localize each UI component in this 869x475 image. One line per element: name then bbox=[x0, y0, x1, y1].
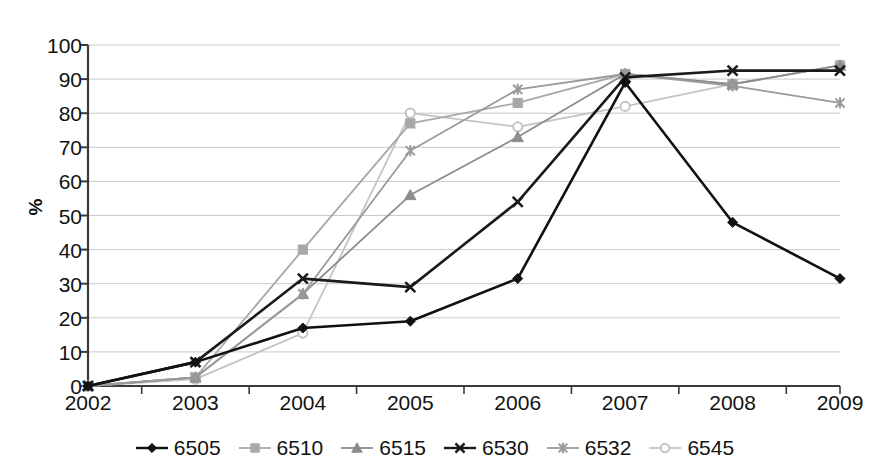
x-axis-tick-label: 2005 bbox=[370, 392, 450, 413]
legend-label: 6532 bbox=[585, 437, 632, 458]
x-axis-tick-label: 2003 bbox=[155, 392, 235, 413]
x-axis-tick-label: 2002 bbox=[48, 392, 128, 413]
square-marker-icon bbox=[250, 443, 258, 451]
diamond-marker-icon bbox=[147, 443, 156, 452]
chart-legend: 650565106515653065326545 bbox=[0, 437, 869, 458]
x-axis-tick-labels: 20022003200420052006200720082009 bbox=[0, 0, 869, 475]
x-axis-tick-label: 2004 bbox=[263, 392, 343, 413]
legend-label: 6515 bbox=[379, 437, 426, 458]
legend-item-6510[interactable]: 6510 bbox=[238, 437, 324, 458]
diamond-marker-icon bbox=[135, 440, 169, 456]
x-axis-tick-label: 2006 bbox=[478, 392, 558, 413]
x-axis-tick-label: 2007 bbox=[585, 392, 665, 413]
x-axis-tick-label: 2009 bbox=[800, 392, 869, 413]
legend-item-6532[interactable]: 6532 bbox=[546, 437, 632, 458]
x-axis-tick-label: 2008 bbox=[693, 392, 773, 413]
line-chart: % 1009080706050403020100 200220032004200… bbox=[0, 0, 869, 475]
legend-label: 6505 bbox=[174, 437, 221, 458]
legend-item-6530[interactable]: 6530 bbox=[443, 437, 529, 458]
legend-label: 6510 bbox=[277, 437, 324, 458]
legend-item-6545[interactable]: 6545 bbox=[648, 437, 734, 458]
circle-marker-icon bbox=[661, 443, 669, 451]
square-marker-icon bbox=[238, 440, 272, 456]
legend-item-6515[interactable]: 6515 bbox=[340, 437, 426, 458]
triangle-marker-icon bbox=[340, 440, 374, 456]
circle-marker-icon bbox=[648, 440, 682, 456]
legend-label: 6545 bbox=[687, 437, 734, 458]
legend-item-6505[interactable]: 6505 bbox=[135, 437, 221, 458]
legend-label: 6530 bbox=[482, 437, 529, 458]
asterisk-marker-icon bbox=[546, 440, 580, 456]
cross-marker-icon bbox=[443, 440, 477, 456]
